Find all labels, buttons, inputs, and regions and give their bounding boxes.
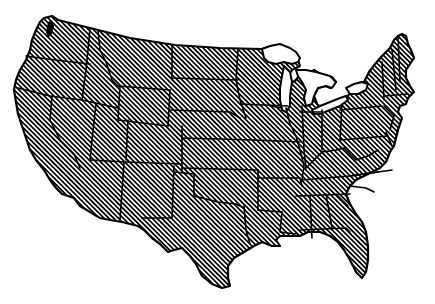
us-landmass [14,16,414,288]
lake-superior [262,44,300,64]
us-map: Contiguous United States [0,0,435,304]
us-map-svg [0,0,435,304]
